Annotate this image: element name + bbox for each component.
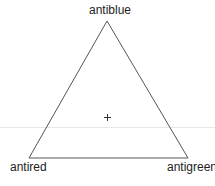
triangle <box>29 21 188 158</box>
vertex-label-bottom-left: antired <box>10 160 47 174</box>
center-plus-marker <box>104 114 111 121</box>
vertex-label-top: antiblue <box>89 3 131 17</box>
vertex-label-bottom-right: antigreen <box>167 160 215 174</box>
diagram-canvas <box>0 0 215 186</box>
